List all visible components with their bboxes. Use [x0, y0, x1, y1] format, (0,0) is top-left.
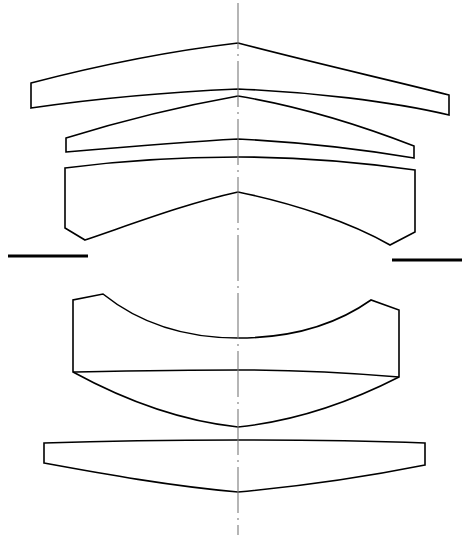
lens-element-2: [66, 96, 414, 158]
lens-element-4: [73, 294, 399, 427]
lens-element-3: [65, 157, 415, 245]
lens-assembly-svg: [0, 0, 465, 538]
lens-element-4-cement-line: [73, 370, 399, 377]
lens-element-5: [44, 440, 425, 492]
lens-element-1: [31, 43, 449, 115]
lens-assembly-diagram: [0, 0, 465, 538]
